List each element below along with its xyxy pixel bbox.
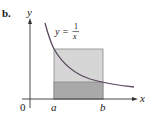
equation-denominator: x xyxy=(72,32,77,41)
diagram: b. y x 0 a b y = 1 x xyxy=(0,0,148,118)
y-axis-label: y xyxy=(26,6,32,18)
x-axis-label: x xyxy=(139,92,145,104)
part-label: b. xyxy=(2,7,11,19)
equation-numerator: 1 xyxy=(74,22,78,31)
equation: y = 1 x xyxy=(54,22,79,41)
lower-rectangle xyxy=(54,82,103,99)
y-axis-arrow-icon xyxy=(28,18,32,24)
tick-a-label: a xyxy=(51,101,57,113)
tick-b-label: b xyxy=(100,101,106,113)
equation-lhs: y = xyxy=(54,26,69,37)
x-axis-arrow-icon xyxy=(132,97,138,101)
origin-label: 0 xyxy=(20,101,26,113)
